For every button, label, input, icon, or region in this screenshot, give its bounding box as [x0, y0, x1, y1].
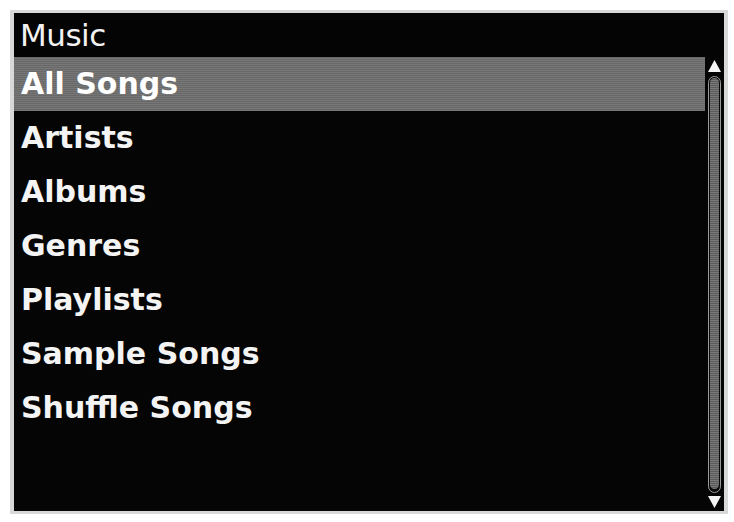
menu-item-label: Albums	[21, 177, 146, 207]
music-menu-screen: Music All Songs Artists Albums Genres Pl…	[14, 13, 724, 511]
menu-item-sample-songs[interactable]: Sample Songs	[14, 327, 724, 381]
scrollbar-track[interactable]	[708, 76, 721, 493]
menu-item-label: Shuffle Songs	[21, 393, 253, 423]
page-title: Music	[14, 20, 106, 51]
menu-list[interactable]: All Songs Artists Albums Genres Playlist…	[14, 57, 724, 511]
screenshot-root: Music All Songs Artists Albums Genres Pl…	[0, 0, 734, 522]
menu-item-genres[interactable]: Genres	[14, 219, 724, 273]
menu-item-label: All Songs	[21, 69, 178, 99]
menu-item-artists[interactable]: Artists	[14, 111, 724, 165]
menu-item-playlists[interactable]: Playlists	[14, 273, 724, 327]
triangle-down-icon[interactable]	[707, 495, 722, 509]
menu-item-label: Sample Songs	[21, 339, 260, 369]
menu-item-albums[interactable]: Albums	[14, 165, 724, 219]
triangle-up-icon[interactable]	[707, 59, 722, 73]
vertical-scrollbar[interactable]	[705, 57, 724, 511]
menu-item-label: Genres	[21, 231, 140, 261]
menu-item-all-songs[interactable]: All Songs	[14, 57, 705, 111]
menu-item-label: Artists	[21, 123, 134, 153]
title-bar: Music	[14, 13, 724, 57]
menu-item-shuffle-songs[interactable]: Shuffle Songs	[14, 381, 724, 435]
menu-item-label: Playlists	[21, 285, 163, 315]
scrollbar-thumb[interactable]	[710, 78, 719, 489]
